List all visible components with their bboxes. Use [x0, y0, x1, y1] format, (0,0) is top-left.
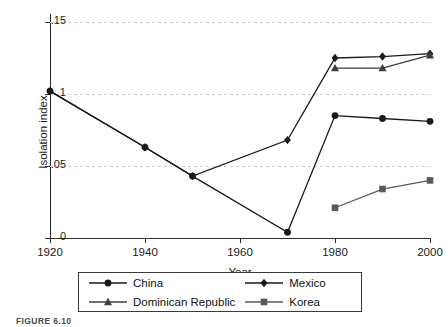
x-tick-label: 2000 — [407, 246, 448, 258]
legend-label: Dominican Republic — [133, 296, 235, 308]
series-korea — [332, 177, 434, 211]
x-tick-mark — [335, 238, 336, 243]
data-point — [426, 51, 434, 58]
x-tick-mark — [240, 238, 241, 243]
series-line — [50, 91, 430, 232]
data-point — [189, 172, 196, 180]
circle-marker-icon — [88, 277, 128, 289]
legend-item-dominican-republic[interactable]: Dominican Republic — [79, 296, 235, 308]
data-point — [332, 112, 339, 119]
x-tick-label: 1940 — [122, 246, 168, 258]
x-tick-label: 1980 — [312, 246, 358, 258]
data-point — [142, 143, 149, 151]
data-point — [379, 52, 386, 60]
data-series-layer — [50, 22, 430, 238]
x-tick-mark — [430, 238, 431, 243]
legend-label: China — [133, 277, 163, 289]
data-point — [284, 229, 291, 236]
x-tick-mark — [50, 238, 51, 243]
triangle-marker-icon — [88, 296, 128, 308]
x-tick-mark — [145, 238, 146, 243]
series-line — [50, 54, 430, 176]
figure-caption: FIGURE 6.10 — [16, 316, 71, 326]
series-china — [47, 88, 434, 236]
square-marker-icon — [244, 296, 284, 308]
data-point — [379, 186, 386, 193]
legend-label: Mexico — [289, 277, 325, 289]
x-tick-label: 1920 — [27, 246, 73, 258]
data-point — [379, 115, 386, 122]
x-tick-label: 1960 — [217, 246, 263, 258]
plot-area: 0.05.1.15 19201940196019802000 Year Isol… — [50, 22, 430, 238]
series-line — [335, 180, 430, 207]
y-axis-title: Isolation index — [37, 95, 49, 169]
data-point — [427, 177, 434, 184]
diamond-marker-icon — [244, 277, 284, 289]
legend: ChinaMexicoDominican RepublicKorea — [78, 272, 362, 312]
data-point — [427, 118, 434, 125]
legend-label: Korea — [289, 296, 320, 308]
data-point — [332, 204, 339, 211]
legend-item-korea[interactable]: Korea — [235, 296, 361, 308]
series-mexico — [47, 49, 434, 180]
legend-item-mexico[interactable]: Mexico — [235, 277, 361, 289]
legend-item-china[interactable]: China — [79, 277, 235, 289]
